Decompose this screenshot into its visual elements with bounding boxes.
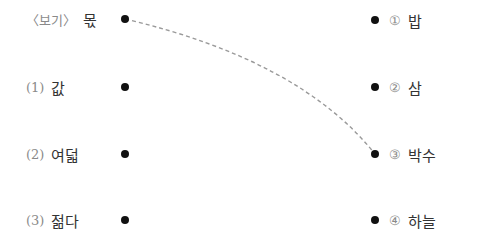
left-word: 젊다	[51, 210, 79, 231]
left-word: 몫	[83, 9, 97, 30]
right-dot-3[interactable]	[371, 150, 379, 158]
item-number: (3)	[26, 213, 44, 228]
item-number: (1)	[26, 80, 44, 95]
left-dot-example[interactable]	[121, 15, 129, 23]
example-dashed-connector	[125, 19, 375, 154]
connector-layer	[0, 0, 477, 240]
left-dot-3[interactable]	[121, 216, 129, 224]
right-dot-4[interactable]	[371, 216, 379, 224]
right-item-3: ③ 박수	[389, 142, 436, 166]
right-dot-2[interactable]	[371, 83, 379, 91]
right-word: 하늘	[408, 210, 436, 231]
left-word: 값	[51, 77, 65, 98]
left-item-2: (2) 여덟	[26, 142, 79, 166]
left-dot-1[interactable]	[121, 83, 129, 91]
right-item-2: ② 삼	[389, 75, 422, 99]
matching-exercise: 〈보기〉 몫 (1) 값 (2) 여덟 (3) 젊다 ① 밥 ② 삼 ③ 박수 …	[0, 0, 477, 240]
choice-number: ②	[389, 80, 401, 95]
left-item-example: 〈보기〉 몫	[26, 7, 97, 31]
left-item-1: (1) 값	[26, 75, 65, 99]
choice-number: ④	[389, 213, 401, 228]
right-word: 밥	[408, 10, 422, 31]
left-word: 여덟	[51, 144, 79, 165]
right-word: 박수	[408, 144, 436, 165]
choice-number: ①	[389, 13, 401, 28]
choice-number: ③	[389, 147, 401, 162]
example-label: 〈보기〉	[26, 10, 76, 29]
right-item-1: ① 밥	[389, 8, 422, 32]
item-number: (2)	[26, 147, 44, 162]
right-dot-1[interactable]	[371, 16, 379, 24]
left-dot-2[interactable]	[121, 150, 129, 158]
left-item-3: (3) 젊다	[26, 208, 79, 232]
right-item-4: ④ 하늘	[389, 208, 436, 232]
right-word: 삼	[408, 77, 422, 98]
